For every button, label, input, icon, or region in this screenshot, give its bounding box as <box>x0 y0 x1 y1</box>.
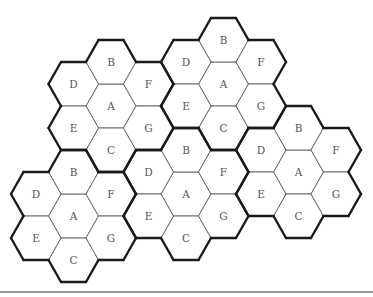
cell-label-c: D <box>144 166 152 178</box>
cell-label-c: D <box>257 144 265 156</box>
cell-label-b: E <box>32 232 40 244</box>
cell-label-f: G <box>144 122 152 134</box>
cell-label-e: F <box>332 144 339 156</box>
cell-label-a: A <box>181 188 190 200</box>
cell-label-e: F <box>257 56 264 68</box>
cell-label-g: C <box>69 254 77 266</box>
cell-label-g: C <box>107 144 115 156</box>
cell-label-f: G <box>332 188 340 200</box>
cell-label-e: F <box>145 78 152 90</box>
bottom-rule <box>0 291 373 293</box>
cell-label-g: C <box>182 232 190 244</box>
cell-label-a: A <box>219 78 228 90</box>
cell-label-g: C <box>219 122 227 134</box>
cell-label-a: A <box>69 210 78 222</box>
cell-label-b: E <box>257 188 265 200</box>
cell-label-d: B <box>295 122 303 134</box>
cell-label-c: D <box>32 188 40 200</box>
cell-label-a: A <box>106 100 115 112</box>
cell-label-d: B <box>220 34 228 46</box>
cell-label-c: D <box>69 78 77 90</box>
cell-label-d: B <box>182 144 190 156</box>
cell-label-f: G <box>219 210 227 222</box>
cell-label-b: E <box>145 210 153 222</box>
cell-label-b: E <box>70 122 78 134</box>
cell-label-d: B <box>107 56 115 68</box>
hexagon-cluster-diagram: ABCDEFGABCDEFGABCDEFGABCDEFGABCDEFG <box>0 0 373 297</box>
cell-label-a: A <box>294 166 303 178</box>
cell-label-f: G <box>107 232 115 244</box>
cell-label-d: B <box>70 166 78 178</box>
cell-label-e: F <box>220 166 227 178</box>
cell-label-c: D <box>182 56 190 68</box>
cell-label-e: F <box>107 188 114 200</box>
cell-label-f: G <box>257 100 265 112</box>
cell-label-b: E <box>182 100 190 112</box>
cell-label-g: C <box>294 210 302 222</box>
